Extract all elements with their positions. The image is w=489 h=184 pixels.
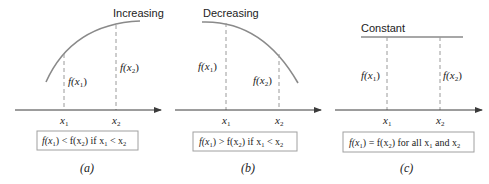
panel-increasing: Increasing f(x1) f(x2) x1 x2 f(x1) < f(x… xyxy=(15,7,164,175)
condition-text: f(x1) = f(x2) for all x1 and x2 xyxy=(349,137,460,149)
fx1-label: f(x1) xyxy=(361,69,380,83)
panel-caption: (b) xyxy=(241,161,255,175)
x1-tick-label: x1 xyxy=(221,114,231,128)
decreasing-curve xyxy=(202,22,298,83)
x2-tick-label: x2 xyxy=(435,114,445,128)
panel-constant: Constant f(x1) f(x2) x1 x2 f(x1) = f(x2)… xyxy=(335,22,482,175)
function-behavior-diagram: Increasing f(x1) f(x2) x1 x2 f(x1) < f(x… xyxy=(0,0,489,184)
panel-caption: (a) xyxy=(80,161,94,175)
panel-decreasing: Decreasing f(x1) f(x2) x1 x2 f(x1) > f(x… xyxy=(175,7,321,175)
panel-caption: (c) xyxy=(400,161,413,175)
x2-tick-label: x2 xyxy=(111,114,121,128)
x1-tick-label: x1 xyxy=(382,114,392,128)
fx2-label: f(x2) xyxy=(443,69,462,83)
fx2-label: f(x2) xyxy=(120,61,139,75)
x2-tick-label: x2 xyxy=(274,114,284,128)
fx1-label: f(x1) xyxy=(68,75,87,89)
panel-title: Increasing xyxy=(113,7,164,19)
fx2-label: f(x2) xyxy=(253,74,272,88)
x1-tick-label: x1 xyxy=(59,114,69,128)
fx1-label: f(x1) xyxy=(198,60,217,74)
panel-title: Constant xyxy=(361,22,405,34)
panel-title: Decreasing xyxy=(203,7,259,19)
